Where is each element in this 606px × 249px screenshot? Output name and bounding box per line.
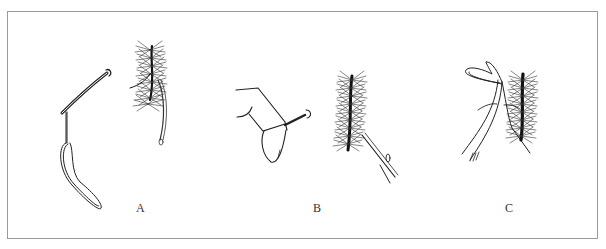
panel-label-a: A — [136, 202, 145, 214]
hackle-feather-icon — [333, 71, 398, 183]
illustration — [0, 0, 606, 249]
panel-c-drawing — [462, 62, 538, 161]
panel-label-b: B — [313, 202, 321, 214]
needle-icon — [285, 110, 311, 125]
thread-loop-icon — [61, 112, 102, 209]
hand-icon — [236, 88, 287, 162]
panel-a-drawing — [61, 41, 167, 209]
hackle-feather-icon — [130, 41, 167, 145]
panel-label-c: C — [505, 202, 513, 214]
thread-loop-icon — [465, 62, 502, 84]
panel-b-drawing — [236, 71, 398, 183]
needle-icon — [62, 70, 111, 113]
hackle-feather-icon — [506, 71, 538, 143]
